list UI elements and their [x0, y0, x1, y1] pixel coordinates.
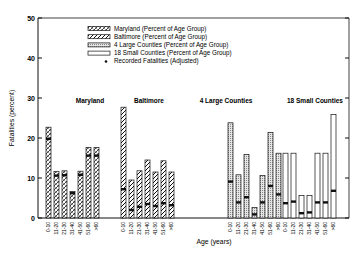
panel-baltimore: Baltimore0-1011-2021-3031-4041-5051-60>6… — [120, 97, 174, 235]
bar — [54, 172, 59, 218]
x-tick-label: 21-30 — [298, 222, 304, 235]
legend-label: 4 Large Counties (Percent of Age Group) — [114, 41, 228, 49]
x-tick-label: >60 — [275, 222, 281, 231]
recorded-fatality-marker — [236, 201, 241, 203]
fatalities-chart: 01020304050Fatalities (percent)Age (year… — [0, 0, 357, 262]
recorded-fatality-marker — [54, 174, 59, 176]
x-tick-label: 51-60 — [85, 222, 91, 235]
x-tick-label: 11-20 — [128, 222, 134, 235]
x-tick-label: 31-40 — [144, 222, 150, 235]
x-tick-label: 11-20 — [53, 222, 59, 235]
recorded-fatality-marker — [169, 204, 174, 206]
panel-title: 4 Large Counties — [200, 97, 253, 105]
recorded-fatality-marker — [307, 211, 312, 213]
recorded-fatality-marker — [283, 202, 288, 204]
recorded-fatality-marker — [94, 154, 99, 156]
bar — [252, 208, 257, 218]
panel-title: Baltimore — [134, 97, 164, 104]
x-tick-label: 41-50 — [314, 222, 320, 235]
x-tick-label: 31-40 — [251, 222, 257, 235]
x-tick-label: 0-10 — [120, 222, 126, 232]
panel-18-small-counties: 18 Small Counties0-1011-2021-3031-4041-5… — [282, 97, 343, 235]
panel-4-large-counties: 4 Large Counties0-1011-2021-3031-4041-50… — [200, 97, 281, 235]
y-tick-label: 0 — [31, 215, 35, 222]
bar — [291, 153, 296, 218]
bar — [331, 114, 336, 218]
legend-dot-icon — [105, 60, 108, 63]
bar — [315, 153, 320, 218]
bar — [276, 153, 281, 218]
x-tick-label: 31-40 — [69, 222, 75, 235]
panel-title: Maryland — [76, 97, 105, 105]
panel-maryland: Maryland0-1011-2021-3031-4041-5051-60>60 — [45, 97, 104, 235]
bar — [169, 172, 174, 218]
recorded-fatality-marker — [244, 196, 249, 198]
recorded-fatality-marker — [62, 174, 67, 176]
x-tick-label: 31-40 — [306, 222, 312, 235]
recorded-fatality-marker — [276, 193, 281, 195]
bar — [260, 176, 265, 218]
bar — [94, 148, 99, 218]
y-tick-label: 50 — [27, 15, 35, 22]
bar — [129, 180, 134, 218]
recorded-fatality-marker — [299, 212, 304, 214]
recorded-fatality-marker — [268, 185, 273, 187]
y-tick-label: 30 — [27, 95, 35, 102]
legend-label: Recorded Fatalities (Adjusted) — [114, 57, 199, 65]
bar — [299, 196, 304, 218]
recorded-fatality-marker — [331, 190, 336, 192]
x-tick-label: 21-30 — [136, 222, 142, 235]
x-tick-label: 11-20 — [290, 222, 296, 235]
recorded-fatality-marker — [228, 180, 233, 182]
bar — [283, 153, 288, 218]
legend-swatch — [88, 43, 110, 47]
recorded-fatality-marker — [291, 200, 296, 202]
recorded-fatality-marker — [78, 174, 83, 176]
legend-label: 18 Small Counties (Percent of Age Group) — [114, 49, 232, 57]
bar — [307, 196, 312, 218]
legend-swatch — [88, 27, 110, 31]
x-tick-label: 41-50 — [259, 222, 265, 235]
bar — [145, 160, 150, 218]
x-tick-label: >60 — [330, 222, 336, 231]
y-tick-label: 20 — [27, 135, 35, 142]
bar — [46, 127, 51, 218]
y-tick-label: 40 — [27, 55, 35, 62]
bar — [86, 148, 91, 218]
bar — [236, 175, 241, 218]
x-tick-label: 51-60 — [322, 222, 328, 235]
legend-label: Baltimore (Percent of Age Group) — [114, 33, 207, 41]
bar — [153, 172, 158, 218]
bar — [228, 123, 233, 218]
x-tick-label: 0-10 — [45, 222, 51, 232]
legend-label: Maryland (Percent of Age Group) — [114, 25, 206, 33]
recorded-fatality-marker — [137, 206, 142, 208]
x-tick-label: 21-30 — [243, 222, 249, 235]
recorded-fatality-marker — [121, 188, 126, 190]
bar — [62, 171, 67, 218]
bar — [137, 171, 142, 218]
x-tick-label: 41-50 — [77, 222, 83, 235]
x-tick-label: 11-20 — [235, 222, 241, 235]
panel-title: 18 Small Counties — [287, 97, 343, 104]
x-tick-label: 51-60 — [267, 222, 273, 235]
legend-swatch — [88, 51, 110, 55]
bar — [78, 171, 83, 218]
legend: Maryland (Percent of Age Group)Baltimore… — [88, 25, 232, 66]
recorded-fatality-marker — [153, 205, 158, 207]
recorded-fatality-marker — [46, 138, 51, 140]
x-tick-label: 41-50 — [152, 222, 158, 235]
x-tick-label: >60 — [168, 222, 174, 231]
bar — [161, 161, 166, 218]
recorded-fatality-marker — [260, 201, 265, 203]
recorded-fatality-marker — [323, 201, 328, 203]
recorded-fatality-marker — [129, 209, 134, 211]
y-axis-label: Fatalities (percent) — [8, 90, 16, 146]
recorded-fatality-marker — [161, 202, 166, 204]
recorded-fatality-marker — [315, 201, 320, 203]
x-tick-label: 0-10 — [227, 222, 233, 232]
recorded-fatality-marker — [145, 203, 150, 205]
recorded-fatality-marker — [86, 154, 91, 156]
recorded-fatality-marker — [70, 192, 75, 194]
x-tick-label: >60 — [93, 222, 99, 231]
